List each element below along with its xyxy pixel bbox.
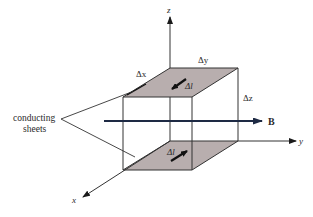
callout-line-1: conducting [13, 113, 55, 123]
conducting-sheets-diagram: z y x B Δl Δl Δx Δy Δz conducting [0, 0, 313, 217]
x-axis-label: x [71, 195, 76, 205]
bottom-current-label: Δl [166, 147, 175, 157]
delta-x-label: Δx [136, 69, 147, 79]
z-axis-label: z [166, 5, 171, 15]
callout-line-2: sheets [23, 124, 47, 134]
delta-z-label: Δz [243, 93, 253, 103]
delta-y-label: Δy [198, 55, 209, 65]
y-axis-label: y [298, 136, 303, 146]
callout-leaders [61, 91, 135, 157]
field-label-B: B [268, 116, 275, 127]
top-current-label: Δl [184, 81, 193, 91]
